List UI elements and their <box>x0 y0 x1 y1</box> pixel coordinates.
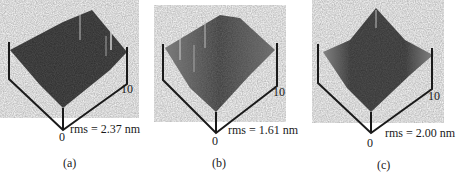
axis-origin-label: 0 <box>367 137 373 149</box>
rms-label: rms = 2.00 nm <box>385 127 455 139</box>
axis-max-label: 10 <box>121 83 133 95</box>
panel-b: 10 0 rms = 1.61 nm (b) <box>150 0 305 181</box>
panel-c: 10 0 rms = 2.00 nm (c) <box>305 0 463 181</box>
axis-origin-label: 0 <box>59 131 65 143</box>
rms-label: rms = 2.37 nm <box>70 123 140 135</box>
axis-origin-label: 0 <box>212 135 218 147</box>
axis-max-label: 10 <box>428 90 440 102</box>
rms-label: rms = 1.61 nm <box>228 124 298 136</box>
panel-caption: (a) <box>63 157 76 169</box>
panel-a: 10 0 rms = 2.37 nm (a) <box>0 0 150 181</box>
panel-caption: (c) <box>377 159 390 171</box>
panel-caption: (b) <box>212 157 226 169</box>
axis-max-label: 10 <box>273 86 285 98</box>
